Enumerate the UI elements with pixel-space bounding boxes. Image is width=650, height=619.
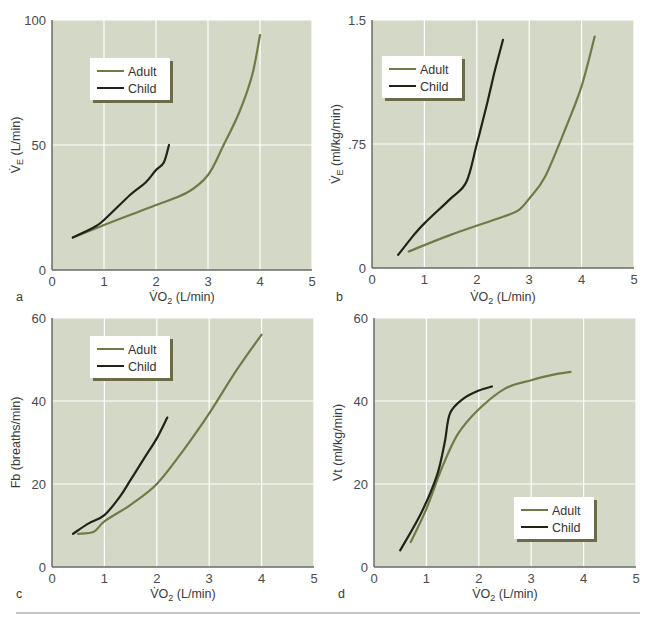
y-tick-label: 1.5 bbox=[348, 13, 366, 28]
x-tick-label: 4 bbox=[258, 571, 265, 586]
y-tick-label: 0 bbox=[39, 263, 46, 278]
x-tick-label: 2 bbox=[153, 571, 160, 586]
legend: AdultChild bbox=[90, 336, 173, 381]
x-tick-label: 3 bbox=[528, 571, 535, 586]
x-tick-label: 4 bbox=[578, 272, 585, 287]
legend: AdultChild bbox=[514, 497, 597, 542]
panel-d: 0123450204060V̇O2 (L/min)Vt (ml/kg/min)d… bbox=[331, 311, 640, 603]
legend-label-child: Child bbox=[552, 521, 581, 535]
legend: AdultChild bbox=[90, 58, 173, 103]
x-tick-label: 5 bbox=[310, 571, 317, 586]
x-tick-label: 4 bbox=[256, 274, 263, 289]
x-tick-label: 5 bbox=[632, 571, 639, 586]
legend-label-adult: Adult bbox=[420, 63, 449, 77]
x-tick-label: 5 bbox=[630, 272, 637, 287]
x-tick-label: 3 bbox=[206, 571, 213, 586]
x-tick-label: 3 bbox=[526, 272, 533, 287]
x-tick-label: 2 bbox=[152, 274, 159, 289]
x-tick-label: 2 bbox=[475, 571, 482, 586]
x-tick-label: 0 bbox=[48, 274, 55, 289]
x-tick-label: 3 bbox=[204, 274, 211, 289]
x-axis-label: V̇O2 (L/min) bbox=[470, 290, 535, 306]
legend-label-adult: Adult bbox=[552, 504, 581, 518]
y-tick-label: 20 bbox=[354, 477, 368, 492]
x-axis-label: V̇O2 (L/min) bbox=[472, 587, 537, 603]
legend-label-adult: Adult bbox=[128, 343, 157, 357]
x-tick-label: 0 bbox=[368, 272, 375, 287]
y-tick-label: 50 bbox=[32, 138, 46, 153]
y-tick-label: 60 bbox=[354, 311, 368, 326]
y-tick-label: 40 bbox=[32, 394, 46, 409]
y-tick-label: 100 bbox=[24, 13, 46, 28]
x-tick-label: 0 bbox=[370, 571, 377, 586]
y-axis-label: Vt (ml/kg/min) bbox=[331, 404, 345, 481]
legend-label-adult: Adult bbox=[128, 65, 157, 79]
x-tick-label: 0 bbox=[48, 571, 55, 586]
x-tick-label: 1 bbox=[101, 571, 108, 586]
legend-label-child: Child bbox=[128, 360, 157, 374]
y-tick-label: 0 bbox=[39, 560, 46, 575]
y-tick-label: 20 bbox=[32, 477, 46, 492]
x-tick-label: 1 bbox=[100, 274, 107, 289]
y-tick-label: 40 bbox=[354, 394, 368, 409]
y-axis-label: Fb (breaths/min) bbox=[9, 397, 23, 489]
x-tick-label: 5 bbox=[308, 274, 315, 289]
figure-canvas: 012345050100V̇O2 (L/min)V̇E (L/min)aAdul… bbox=[0, 0, 650, 619]
y-tick-label: 60 bbox=[32, 311, 46, 326]
y-tick-label: 0 bbox=[361, 560, 368, 575]
panel-letter: a bbox=[16, 290, 23, 304]
panel-letter: d bbox=[338, 587, 345, 601]
y-tick-label: 0 bbox=[359, 261, 366, 276]
legend-label-child: Child bbox=[420, 80, 449, 94]
x-axis-label: V̇O2 (L/min) bbox=[149, 290, 214, 306]
panel-a: 012345050100V̇O2 (L/min)V̇E (L/min)aAdul… bbox=[9, 13, 316, 306]
panel-c: 0123450204060V̇O2 (L/min)Fb (breaths/min… bbox=[9, 311, 318, 603]
y-axis-label: V̇E (ml/kg/min) bbox=[329, 104, 345, 184]
panel-b: 0123450.751.5V̇O2 (L/min)V̇E (ml/kg/min)… bbox=[329, 13, 638, 306]
x-tick-label: 1 bbox=[423, 571, 430, 586]
x-axis-label: V̇O2 (L/min) bbox=[150, 587, 215, 603]
legend: AdultChild bbox=[382, 56, 465, 101]
panel-letter: b bbox=[336, 290, 343, 304]
x-tick-label: 1 bbox=[421, 272, 428, 287]
x-tick-label: 4 bbox=[580, 571, 587, 586]
y-axis-label: V̇E (L/min) bbox=[9, 117, 25, 174]
legend-label-child: Child bbox=[128, 82, 157, 96]
y-tick-label: .75 bbox=[348, 137, 366, 152]
x-tick-label: 2 bbox=[473, 272, 480, 287]
panel-letter: c bbox=[16, 587, 22, 601]
